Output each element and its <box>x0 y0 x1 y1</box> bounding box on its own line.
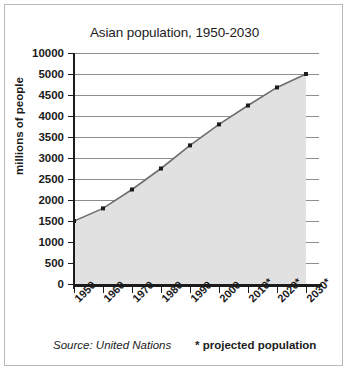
y-axis-tick-label: 0 <box>8 278 64 290</box>
data-point-marker <box>101 206 105 210</box>
y-axis-tick-label: 5000 <box>8 68 64 80</box>
source-note: Source: United Nations <box>53 339 171 351</box>
data-point-marker <box>275 85 279 89</box>
data-point-marker <box>130 188 134 192</box>
chart-title: Asian population, 1950-2030 <box>5 25 344 40</box>
plot-area <box>74 53 319 284</box>
y-axis-tick-label: 2500 <box>8 173 64 185</box>
chart-card: Asian population, 1950-2030 millions of … <box>4 4 343 366</box>
y-axis-tick-label: 4500 <box>8 89 64 101</box>
y-axis-tick-label: 500 <box>8 257 64 269</box>
y-axis-tick-label: 1000 <box>8 236 64 248</box>
y-axis-line <box>73 53 75 289</box>
y-axis-label: millions of people <box>13 66 25 186</box>
y-axis-tick-label: 1500 <box>8 215 64 227</box>
data-point-marker <box>246 104 250 108</box>
y-axis-tick-label: 3500 <box>8 131 64 143</box>
y-axis-tick-label: 3000 <box>8 152 64 164</box>
y-axis-tick-label: 10000 <box>8 47 64 59</box>
y-axis-tick-label: 4000 <box>8 110 64 122</box>
area-fill <box>74 74 306 284</box>
projected-population-note: * projected population <box>195 339 316 351</box>
data-point-marker <box>304 72 308 76</box>
y-axis-tick-label: 2000 <box>8 194 64 206</box>
chart-footer: Source: United Nations * projected popul… <box>5 335 344 365</box>
data-point-marker <box>217 122 221 126</box>
data-point-marker <box>188 143 192 147</box>
population-area-series <box>74 53 319 284</box>
data-point-marker <box>159 167 163 171</box>
